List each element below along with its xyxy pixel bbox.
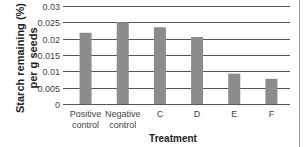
x-tick-label: control <box>109 120 136 130</box>
bar <box>191 37 203 104</box>
x-tick-label: Negative <box>105 109 141 119</box>
y-tick-label: 0.015 <box>37 51 60 61</box>
x-tick-label: C <box>157 109 164 119</box>
y-tick-label: 0.02 <box>42 35 60 45</box>
bars <box>80 22 278 104</box>
bar <box>228 74 240 104</box>
x-tick-label: F <box>269 109 275 119</box>
x-tick-label: control <box>72 120 99 130</box>
y-axis-ticks: 00.0050.010.0150.020.0250.03 <box>37 2 60 110</box>
bar <box>80 33 92 104</box>
x-tick-label: E <box>231 109 237 119</box>
x-tick-label: Positive <box>70 109 102 119</box>
x-axis-label: Treatment <box>149 133 197 144</box>
y-tick-label: 0.005 <box>37 84 60 94</box>
bar <box>154 27 166 104</box>
gridlines <box>63 7 290 105</box>
y-tick-label: 0 <box>55 100 60 110</box>
bar <box>265 79 277 104</box>
x-axis-ticks: PositivecontrolNegativecontrolCDEF <box>70 109 275 130</box>
y-tick-label: 0.025 <box>37 18 60 28</box>
y-tick-label: 0.03 <box>42 2 60 12</box>
y-tick-label: 0.01 <box>42 67 60 77</box>
y-axis-label: Starch remaining (%)per g seeds <box>14 3 39 113</box>
bar-chart: 00.0050.010.0150.020.0250.03 Positivecon… <box>0 0 305 147</box>
x-tick-label: D <box>194 109 201 119</box>
bar <box>117 22 129 104</box>
